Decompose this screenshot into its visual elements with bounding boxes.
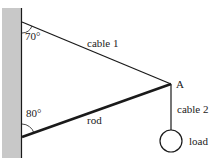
angle-bottom-label: 80°: [26, 107, 41, 119]
rod: [22, 84, 171, 137]
statics-diagram: 70° cable 1 A 80° rod cable 2 load: [0, 0, 215, 168]
load-label: load: [189, 135, 208, 147]
cable-1: [22, 22, 171, 84]
cable-2-label: cable 2: [177, 103, 208, 115]
wall: [2, 8, 21, 158]
cable-1-label: cable 1: [87, 37, 118, 49]
rod-label: rod: [87, 114, 102, 126]
point-a-label: A: [176, 78, 184, 90]
angle-arc-bottom: [22, 124, 34, 133]
load-circle: [160, 130, 182, 152]
angle-top-label: 70°: [25, 30, 40, 42]
